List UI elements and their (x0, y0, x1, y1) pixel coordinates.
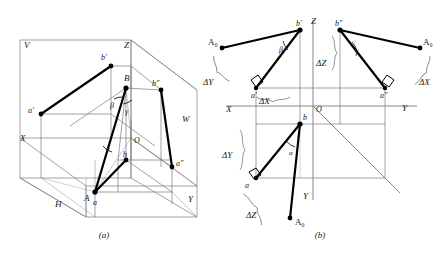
axis-label-y-right-b: Y (402, 103, 408, 113)
point-label-app-b: a″ (380, 91, 388, 100)
axis-label-x-b: X (225, 104, 232, 114)
dot-aprime-b (254, 86, 258, 90)
brace-delta-z-upper (332, 36, 337, 70)
point-label-A0-left: A₀ (208, 37, 218, 47)
dim-label-delta-x-axis: ΔX (258, 96, 270, 106)
brace-delta-y-lower (240, 130, 245, 170)
seg-b-A0-bottom (290, 124, 300, 218)
point-label-A0-bottom: A₀ (295, 217, 305, 227)
point-label-bprime-b: b′ (296, 19, 302, 28)
axis-label-y-lower-b: Y (303, 191, 309, 201)
dot-bprime-b (297, 27, 302, 32)
dot-a-b (254, 176, 258, 180)
axis-label-z-b: Z (311, 16, 317, 26)
dot-b-b (297, 121, 302, 126)
angle-label-beta-b: β (278, 45, 283, 54)
caption-b: (b) (315, 230, 326, 240)
dot-A0-right (418, 46, 423, 51)
point-label-A0-right: A₀ (423, 37, 433, 47)
dot-bpp-b (337, 27, 342, 32)
point-label-bpp-b: b″ (335, 19, 343, 28)
angle-label-alpha-b: α (289, 149, 293, 157)
dim-label-delta-x-upper: ΔX (418, 77, 430, 87)
seg-b-a-bottom (256, 124, 300, 178)
labels-panel-b: Z X O Y Y A₀ b′ b″ A₀ a′ a″ b a A₀ β γ α… (202, 16, 433, 227)
point-label-b-b: b (303, 113, 307, 122)
brace-delta-z-lower (243, 191, 265, 225)
dim-label-delta-z-upper: ΔZ (315, 58, 327, 68)
axis-y45-extension (313, 106, 400, 193)
dot-app-b (383, 86, 387, 90)
dim-label-delta-z-lower: ΔZ (245, 210, 257, 220)
dot-A0-bottom (288, 216, 293, 221)
dot-A0-left (220, 46, 225, 51)
figure-canvas: V W H X Y Z O b′ B b″ a′ A b a″ a β γ α … (0, 0, 447, 259)
dim-label-delta-y-lower: ΔY (221, 150, 233, 160)
point-label-aprime-b: a′ (251, 91, 257, 100)
axis-label-o-b: O (316, 105, 322, 114)
arc-alpha-b (287, 142, 295, 147)
right-angle-marks (249, 75, 394, 179)
dim-label-delta-y-upper: ΔY (202, 77, 214, 87)
panel-b-drawing: Z X O Y Y A₀ b′ b″ A₀ a′ a″ b a A₀ β γ α… (0, 0, 447, 259)
point-label-a-b: a (245, 181, 249, 190)
